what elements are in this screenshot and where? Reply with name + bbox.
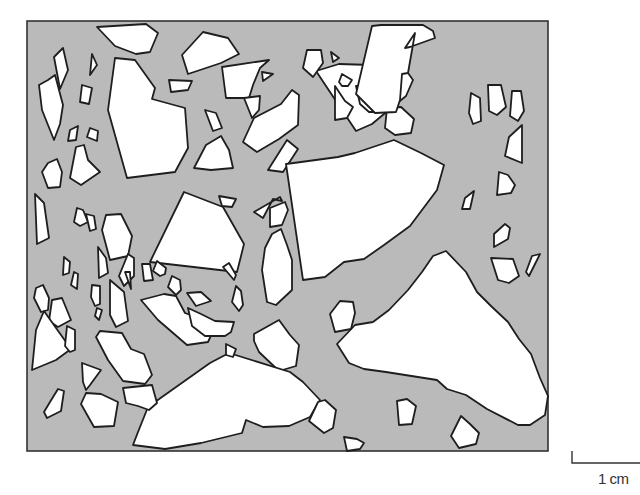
aggregate-particle [80,85,92,104]
aggregate-particle [142,264,153,281]
aggregate-particle [397,399,416,425]
scale-bar-label: 1 cm [598,470,629,487]
aggregate-particle [65,326,75,352]
aggregate-particle [219,196,236,207]
aggregate-particle [469,93,481,124]
scale-bar [572,451,640,463]
aggregate-cross-section-diagram [0,0,640,495]
scale-bar-line [572,451,640,463]
aggregate-particle [169,80,192,92]
